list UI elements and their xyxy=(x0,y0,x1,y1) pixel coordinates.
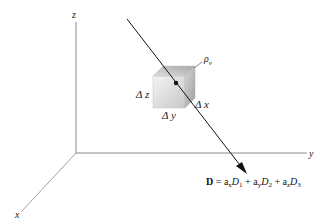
delta-x-label: Δ x xyxy=(195,99,209,110)
eq-equals: = xyxy=(213,176,224,187)
eq-term-1: axD1 + xyxy=(224,176,253,187)
delta-y-label: Δ y xyxy=(162,110,176,121)
center-point xyxy=(174,81,178,85)
rho-subscript: v xyxy=(209,59,212,67)
delta-z-label: Δ z xyxy=(136,89,149,100)
volume-element-cube xyxy=(153,66,195,108)
y-axis-label: y xyxy=(309,149,313,159)
z-axis-label: z xyxy=(72,10,76,20)
x-axis-label: x xyxy=(15,210,19,220)
eq-term-3: azD3 xyxy=(283,176,301,187)
eq-term-2: ayD2 + xyxy=(253,176,282,187)
density-leader xyxy=(194,62,202,68)
vector-equation: D = axD1 + ayD2 + azD3 xyxy=(206,177,301,189)
density-label: ρv xyxy=(204,54,212,67)
x-axis xyxy=(21,153,76,212)
arrowhead-icon xyxy=(236,162,247,174)
